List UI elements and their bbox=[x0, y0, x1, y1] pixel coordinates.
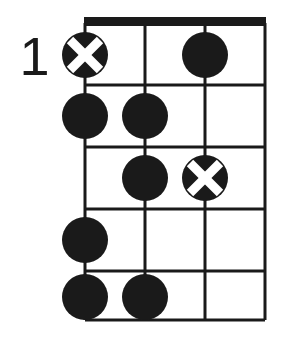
marker-s3-f3 bbox=[182, 155, 228, 201]
marker-s2-f5 bbox=[122, 274, 168, 320]
fretboard-grid bbox=[84, 17, 266, 320]
marker-s2-f2 bbox=[122, 93, 168, 139]
marker-s2-f3 bbox=[122, 155, 168, 201]
marker-s3-f1 bbox=[182, 32, 228, 78]
marker-s1-f4 bbox=[62, 217, 108, 263]
marker-s1-f5 bbox=[62, 274, 108, 320]
marker-s1-f2 bbox=[62, 93, 108, 139]
chord-diagram bbox=[0, 0, 289, 344]
marker-s1-f1 bbox=[62, 32, 108, 78]
nut-bar bbox=[84, 17, 266, 26]
